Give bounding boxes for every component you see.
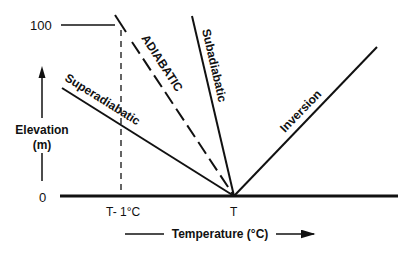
x-axis-title: Temperature (°C) xyxy=(172,227,269,241)
x-tick-t: T xyxy=(230,205,238,219)
inversion-line xyxy=(234,47,377,196)
superadiabatic-line xyxy=(62,88,234,196)
superadiabatic-label: Superadiabatic xyxy=(62,71,143,129)
lapse-rate-diagram: 100 0 T- 1°C T Elevation (m) Temperature… xyxy=(0,0,408,254)
x-tick-t-minus-1: T- 1°C xyxy=(106,205,140,219)
y-tick-0: 0 xyxy=(39,190,46,205)
y-axis-unit: (m) xyxy=(33,138,52,152)
elevation-arrowhead-icon xyxy=(39,66,46,78)
y-axis-title: Elevation xyxy=(15,123,68,137)
y-tick-100: 100 xyxy=(30,18,52,33)
adiabatic-line xyxy=(115,15,126,32)
